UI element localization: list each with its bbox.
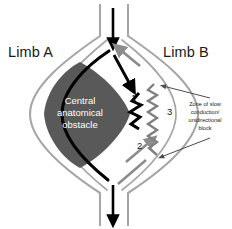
marker-3-label: 3 [167, 106, 172, 117]
reentry-circuit-figure: Limb A Limb B Central anatomical obstacl… [0, 0, 232, 229]
marker-1-label: 1 [131, 92, 136, 103]
limb-a-label: Limb A [8, 45, 53, 60]
central-obstacle-label: Central anatomical obstacle [49, 95, 111, 131]
retrograde-arrow-top [118, 48, 140, 66]
slow-conduction-zone-label: Zone of slow conduction/ unidirectional … [181, 101, 229, 133]
slow-conduction-zigzag [148, 84, 157, 155]
limb-b-label: Limb B [163, 45, 209, 60]
antegrade-block-arrow [114, 55, 132, 88]
marker-2-label: 2 [137, 140, 142, 151]
